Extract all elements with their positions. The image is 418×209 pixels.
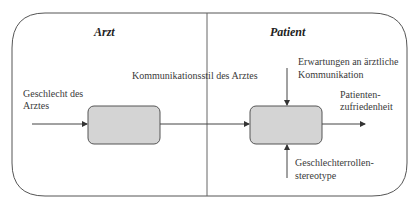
label-stereotype-line1: Geschlechterrollen-	[295, 157, 374, 169]
label-patienten-line2: zufriedenheit	[340, 101, 393, 113]
arzt-box	[88, 106, 160, 144]
label-patienten-line1: Patienten-	[340, 89, 381, 101]
label-geschlecht-line1: Geschlecht des	[23, 88, 83, 100]
label-erwartungen-line2: Kommunikation	[298, 69, 364, 81]
label-erwartungen-line1: Erwartungen an ärztliche	[298, 56, 399, 68]
label-geschlecht-line2: Arztes	[23, 100, 49, 112]
section-title-arzt: Arzt	[94, 25, 115, 40]
label-kommunikationsstil: Kommunikationsstil des Arztes	[132, 70, 258, 82]
section-title-patient: Patient	[270, 25, 305, 40]
patient-box	[250, 106, 322, 144]
label-stereotype-line2: stereotype	[295, 170, 336, 182]
